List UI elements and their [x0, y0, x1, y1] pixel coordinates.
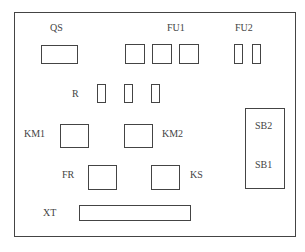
component-fu1-b	[152, 44, 172, 64]
component-xt-terminal-block	[79, 205, 191, 221]
component-fu1-a	[125, 44, 145, 64]
label-sb2: SB2	[255, 121, 272, 131]
component-r-a	[97, 84, 106, 103]
component-qs	[41, 45, 78, 64]
label-fu1: FU1	[167, 23, 185, 33]
label-fr: FR	[62, 170, 74, 180]
component-fu2-a	[234, 44, 243, 64]
component-ks	[151, 165, 180, 190]
component-r-b	[124, 84, 133, 103]
label-fu2: FU2	[235, 23, 253, 33]
label-km1: KM1	[24, 129, 45, 139]
component-fu1-c	[179, 44, 199, 64]
label-qs: QS	[50, 23, 63, 33]
label-xt: XT	[43, 208, 56, 218]
label-km2: KM2	[162, 129, 183, 139]
label-r: R	[72, 89, 79, 99]
component-km2	[124, 124, 153, 148]
label-sb1: SB1	[255, 160, 272, 170]
component-fu2-b	[252, 44, 261, 64]
component-r-c	[151, 84, 160, 103]
component-fr	[88, 165, 117, 190]
component-km1	[60, 124, 89, 148]
label-ks: KS	[190, 170, 203, 180]
